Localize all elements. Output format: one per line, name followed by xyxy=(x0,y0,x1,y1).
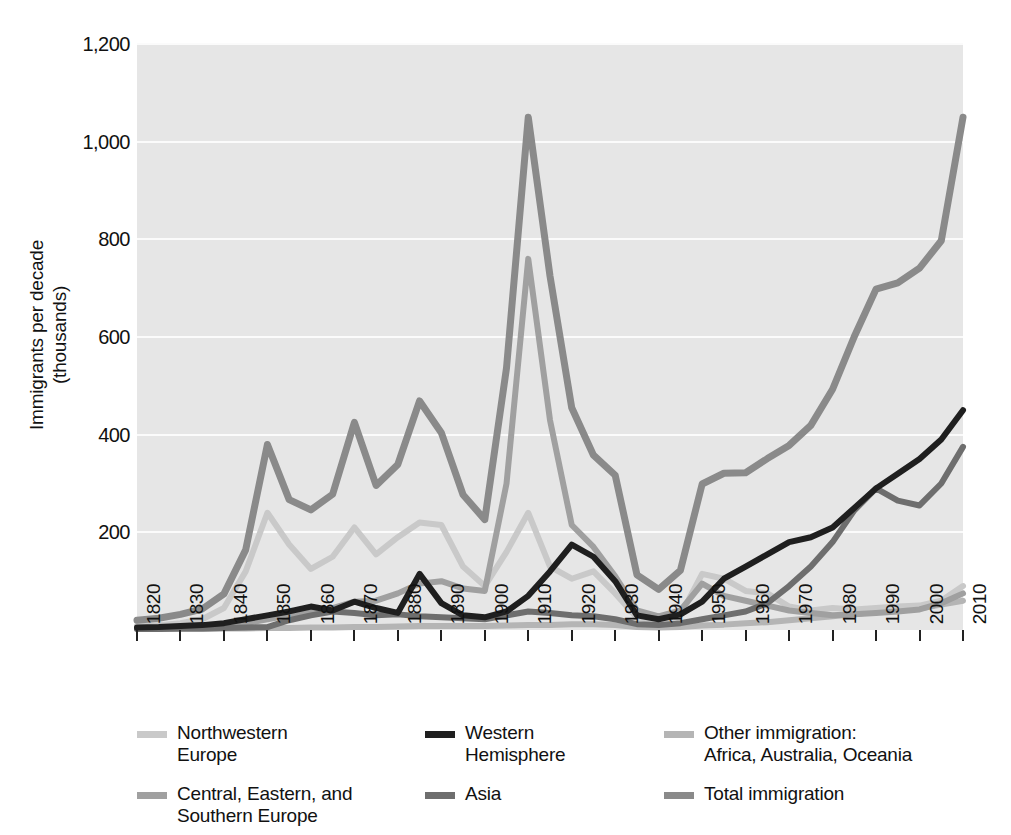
legend-item-asia: Asia xyxy=(425,783,625,805)
x-tick-label: 1850 xyxy=(274,584,293,646)
data-lines xyxy=(137,44,963,630)
x-tick-mark xyxy=(136,630,138,641)
x-tick-mark xyxy=(266,630,268,641)
legend-column-1: Northwestern EuropeCentral, Eastern, and… xyxy=(137,722,397,834)
x-tick-mark xyxy=(788,630,790,641)
x-tick-mark xyxy=(962,630,964,641)
x-tick-mark xyxy=(832,630,834,641)
legend-swatch-other-immigration xyxy=(664,731,694,738)
legend-swatch-asia xyxy=(425,792,455,799)
chart-legend: Northwestern EuropeCentral, Eastern, and… xyxy=(137,722,1011,822)
x-tick-label: 1860 xyxy=(318,584,337,646)
x-tick-mark xyxy=(701,630,703,641)
x-tick-label: 1890 xyxy=(448,584,467,646)
x-tick-label: 1820 xyxy=(144,584,163,646)
legend-label-total-immigration: Total immigration xyxy=(704,783,844,805)
x-tick-label: 2000 xyxy=(927,584,946,646)
x-tick-label: 1980 xyxy=(840,584,859,646)
x-tick-mark xyxy=(310,630,312,641)
x-tick-mark xyxy=(179,630,181,641)
legend-label-other-immigration: Other immigration: Africa, Australia, Oc… xyxy=(704,722,912,766)
y-tick-label: 200 xyxy=(60,522,130,542)
x-tick-mark xyxy=(527,630,529,641)
legend-swatch-central-eastern-southern-europe xyxy=(137,792,167,799)
legend-swatch-western-hemisphere xyxy=(425,731,455,738)
x-tick-mark xyxy=(658,630,660,641)
y-tick-label: 600 xyxy=(60,327,130,347)
x-tick-label: 1920 xyxy=(579,584,598,646)
y-tick-label: 800 xyxy=(60,229,130,249)
x-tick-label: 1830 xyxy=(187,584,206,646)
x-tick-mark xyxy=(440,630,442,641)
y-tick-label: 1,000 xyxy=(60,132,130,152)
legend-column-2: Western HemisphereAsia xyxy=(425,722,625,812)
legend-label-asia: Asia xyxy=(465,783,501,805)
y-tick-label: 400 xyxy=(60,425,130,445)
x-tick-label: 1950 xyxy=(709,584,728,646)
y-axis-tick-labels: 1,2001,000800600400200 xyxy=(56,0,130,835)
x-tick-label: 1900 xyxy=(492,584,511,646)
y-tick-label: 1,200 xyxy=(60,34,130,54)
legend-column-3: Other immigration: Africa, Australia, Oc… xyxy=(664,722,1011,812)
x-tick-label: 1910 xyxy=(535,584,554,646)
legend-item-other-immigration: Other immigration: Africa, Australia, Oc… xyxy=(664,722,1011,766)
series-line xyxy=(137,117,963,620)
x-tick-label: 1960 xyxy=(753,584,772,646)
x-tick-mark xyxy=(397,630,399,641)
x-tick-label: 1840 xyxy=(231,584,250,646)
legend-label-western-hemisphere: Western Hemisphere xyxy=(465,722,565,766)
x-tick-label: 1970 xyxy=(796,584,815,646)
x-axis: 1820183018401850186018701880189019001910… xyxy=(137,630,963,720)
x-tick-label: 1880 xyxy=(405,584,424,646)
legend-label-northwestern-europe: Northwestern Europe xyxy=(177,722,288,766)
legend-item-western-hemisphere: Western Hemisphere xyxy=(425,722,625,766)
legend-swatch-total-immigration xyxy=(664,792,694,799)
immigration-line-chart: Immigrants per decade (thousands) 1,2001… xyxy=(0,0,1011,835)
plot-area xyxy=(137,44,963,630)
x-tick-label: 1940 xyxy=(666,584,685,646)
x-tick-mark xyxy=(919,630,921,641)
x-tick-mark xyxy=(875,630,877,641)
x-tick-mark xyxy=(614,630,616,641)
x-tick-mark xyxy=(353,630,355,641)
legend-item-northwestern-europe: Northwestern Europe xyxy=(137,722,397,766)
legend-item-central-eastern-southern-europe: Central, Eastern, and Southern Europe xyxy=(137,783,397,827)
x-tick-mark xyxy=(223,630,225,641)
legend-item-total-immigration: Total immigration xyxy=(664,783,1011,805)
legend-label-central-eastern-southern-europe: Central, Eastern, and Southern Europe xyxy=(177,783,352,827)
legend-swatch-northwestern-europe xyxy=(137,731,167,738)
x-tick-mark xyxy=(745,630,747,641)
x-tick-label: 1990 xyxy=(883,584,902,646)
x-tick-label: 2010 xyxy=(970,584,989,646)
x-tick-label: 1930 xyxy=(622,584,641,646)
x-tick-mark xyxy=(571,630,573,641)
x-tick-label: 1870 xyxy=(361,584,380,646)
x-tick-mark xyxy=(484,630,486,641)
